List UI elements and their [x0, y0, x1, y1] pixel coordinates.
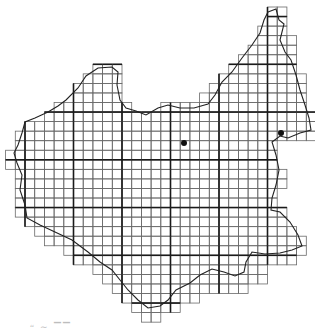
- grid-cell: [44, 150, 54, 160]
- grid-cell: [6, 150, 16, 160]
- grid-cell: [132, 208, 142, 218]
- grid-cell: [64, 227, 74, 237]
- grid-cell: [219, 131, 229, 141]
- grid-cell: [54, 188, 64, 198]
- grid-cell: [277, 179, 287, 189]
- grid-cell: [238, 198, 248, 208]
- grid-cell: [190, 179, 200, 189]
- grid-cell: [83, 255, 93, 265]
- grid-cell: [103, 169, 113, 179]
- grid-cell: [190, 122, 200, 132]
- grid-cell: [161, 265, 171, 275]
- grid-cell: [277, 255, 287, 265]
- grid-cell: [93, 83, 103, 93]
- grid-cell: [258, 150, 268, 160]
- grid-cell: [277, 227, 287, 237]
- grid-cell: [132, 122, 142, 132]
- grid-cell: [83, 122, 93, 132]
- grid-cell: [151, 265, 161, 275]
- grid-cell: [35, 198, 45, 208]
- grid-cell: [258, 103, 268, 113]
- grid-cell: [229, 265, 239, 275]
- grid-cell: [15, 208, 25, 218]
- grid-cell: [54, 217, 64, 227]
- grid-cell: [209, 274, 219, 284]
- grid-cell: [132, 131, 142, 141]
- grid-cell: [219, 103, 229, 113]
- grid-cell: [248, 131, 258, 141]
- grid-cell: [54, 160, 64, 170]
- grid-cell: [141, 122, 151, 132]
- grid-cell: [268, 45, 278, 55]
- grid-cell: [103, 227, 113, 237]
- grid-cell: [219, 274, 229, 284]
- grid-cell: [141, 141, 151, 151]
- grid-cell: [200, 236, 210, 246]
- grid-cell: [93, 208, 103, 218]
- grid-cell: [297, 122, 307, 132]
- grid-cell: [258, 179, 268, 189]
- grid-cell: [83, 141, 93, 151]
- grid-cell: [258, 255, 268, 265]
- grid-cell: [93, 141, 103, 151]
- grid-cell: [122, 294, 132, 304]
- grid-cell: [93, 103, 103, 113]
- grid-cell: [287, 93, 297, 103]
- grid-cell: [238, 217, 248, 227]
- grid-cell: [248, 55, 258, 65]
- grid-cell: [238, 274, 248, 284]
- grid-cell: [122, 227, 132, 237]
- grid-cell: [287, 45, 297, 55]
- grid-cell: [200, 112, 210, 122]
- grid-cell: [268, 26, 278, 36]
- grid-cell: [277, 93, 287, 103]
- grid-cell: [35, 179, 45, 189]
- grid-cell: [171, 208, 181, 218]
- grid-cell: [180, 198, 190, 208]
- grid-cell: [180, 179, 190, 189]
- grid-cell: [190, 294, 200, 304]
- grid-cell: [258, 131, 268, 141]
- grid-cell: [64, 188, 74, 198]
- grid-cell: [248, 227, 258, 237]
- grid-cell: [25, 188, 35, 198]
- grid-cell: [209, 227, 219, 237]
- grid-cell: [200, 246, 210, 256]
- grid-cell: [209, 131, 219, 141]
- grid-cell: [141, 294, 151, 304]
- grid-cell: [171, 265, 181, 275]
- grid-cell: [219, 227, 229, 237]
- grid-cell: [132, 141, 142, 151]
- grid-cell: [180, 122, 190, 132]
- grid-cell: [74, 227, 84, 237]
- grid-cell: [103, 217, 113, 227]
- grid-cell: [83, 103, 93, 113]
- grid-cell: [219, 74, 229, 84]
- grid-cell: [93, 265, 103, 275]
- grid-cell: [200, 274, 210, 284]
- grid-cell: [83, 93, 93, 103]
- grid-cell: [209, 255, 219, 265]
- grid-cell: [161, 208, 171, 218]
- grid-cell: [6, 160, 16, 170]
- grid-cell: [161, 246, 171, 256]
- grid-cell: [15, 150, 25, 160]
- grid-cell: [112, 131, 122, 141]
- grid-cell: [161, 169, 171, 179]
- grid-cell: [74, 255, 84, 265]
- grid-cell: [112, 160, 122, 170]
- grid-cell: [238, 169, 248, 179]
- grid-cell: [132, 284, 142, 294]
- grid-cell: [209, 217, 219, 227]
- grid-cell: [229, 217, 239, 227]
- grid-cell: [200, 188, 210, 198]
- grid-cell: [258, 169, 268, 179]
- grid-cell: [122, 217, 132, 227]
- grid-cell: [258, 160, 268, 170]
- grid-cell: [277, 83, 287, 93]
- grid-cell: [161, 160, 171, 170]
- grid-cell: [74, 208, 84, 218]
- grid-cells: [6, 7, 315, 322]
- grid-cell: [229, 255, 239, 265]
- grid-cell: [112, 122, 122, 132]
